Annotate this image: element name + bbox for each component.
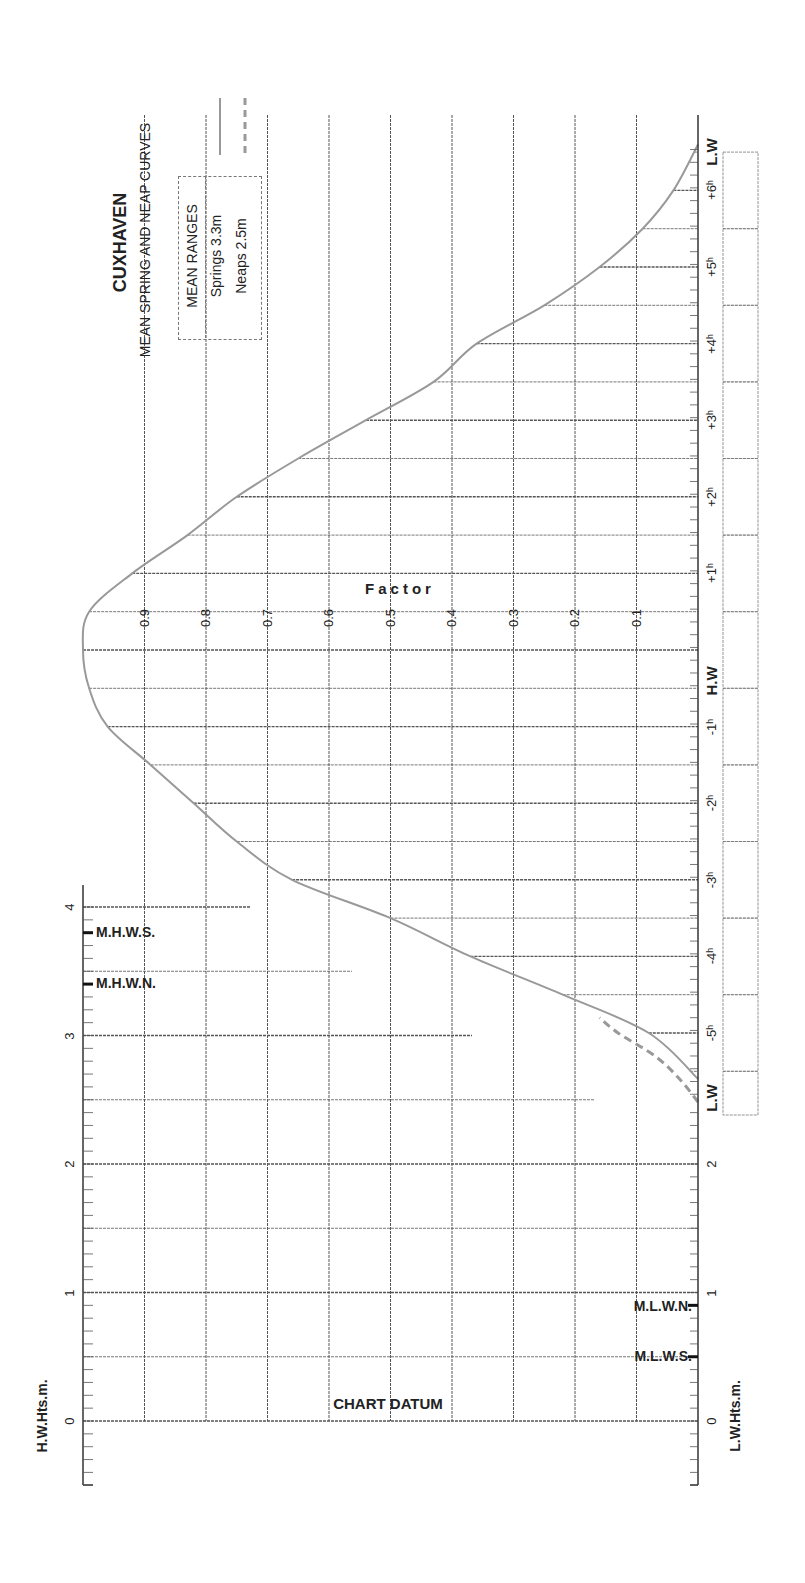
hw-height-tick: 4: [60, 877, 80, 937]
factor-tick-label: 0.5: [381, 588, 401, 648]
time-tick-label: H.W: [702, 651, 722, 711]
mlwn-label: M.L.W.N.: [612, 1298, 692, 1314]
time-tick-label: +5ʰ: [702, 237, 722, 297]
hw-height-tick: 0: [60, 1391, 80, 1451]
factor-tick-label: 0.7: [258, 588, 278, 648]
hw-height-tick: 3: [60, 1006, 80, 1066]
neaps-curve: [600, 1018, 698, 1102]
legend-neaps: Neaps 2.5m: [233, 186, 249, 326]
time-tick-label: +2ʰ: [702, 467, 722, 527]
chart-title: CUXHAVEN: [110, 143, 131, 343]
factor-tick-label: 0.1: [627, 588, 647, 648]
factor-tick-label: 0.8: [196, 588, 216, 648]
legend-springs: Springs 3.3m: [208, 186, 224, 326]
hw-axis-label: H.W.Hts.m.: [34, 1366, 50, 1466]
hw-height-tick: 1: [60, 1263, 80, 1323]
mhwn-label: M.H.W.N.: [96, 975, 156, 991]
legend-header: MEAN RANGES: [184, 176, 200, 336]
chart-subtitle: MEAN SPRING AND NEAP CURVES: [137, 75, 153, 405]
lw-height-tick: 0: [702, 1391, 722, 1451]
hw-height-tick: 2: [60, 1134, 80, 1194]
time-tick-label: -2ʰ: [702, 773, 722, 833]
factor-tick-label: 0.6: [319, 588, 339, 648]
factor-tick-label: 0.9: [135, 588, 155, 648]
time-tick-label: +3ʰ: [702, 390, 722, 450]
lw-axis-label: L.W.Hts.m.: [727, 1366, 743, 1466]
time-tick-label: L.W: [702, 122, 722, 182]
time-tick-label: -5ʰ: [702, 1003, 722, 1063]
time-tick-label: L.W: [702, 1068, 722, 1128]
mlws-label: M.L.W.S.: [612, 1348, 692, 1364]
mhws-label: M.H.W.S.: [96, 924, 155, 940]
factor-tick-label: 0.3: [504, 588, 524, 648]
factor-tick-label: 0.4: [442, 588, 462, 648]
time-tick-label: -4ʰ: [702, 926, 722, 986]
factor-tick-label: 0.2: [565, 588, 585, 648]
lw-height-tick: 2: [702, 1134, 722, 1194]
time-tick-label: -3ʰ: [702, 850, 722, 910]
chart-grid: [83, 115, 698, 1421]
time-tick-label: +4ʰ: [702, 314, 722, 374]
lw-height-tick: 1: [702, 1263, 722, 1323]
legend-divider: [205, 176, 206, 338]
time-tick-label: +1ʰ: [702, 543, 722, 603]
chart-datum-label: CHART DATUM: [318, 1395, 458, 1412]
